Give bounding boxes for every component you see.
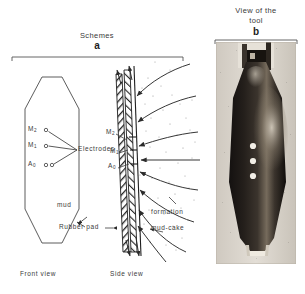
- tool-photo-graphic: [216, 42, 296, 264]
- tool-photograph: [216, 42, 296, 264]
- photo-electrode-dot-2: [250, 158, 256, 164]
- photo-head-highlight: [250, 53, 255, 59]
- photo-electrode-dot-1: [250, 143, 256, 149]
- figure-root: Schemes a View of the tool b: [0, 0, 305, 294]
- photo-electrode-dot-3: [250, 173, 256, 179]
- photo-body-highlight-top: [242, 66, 270, 106]
